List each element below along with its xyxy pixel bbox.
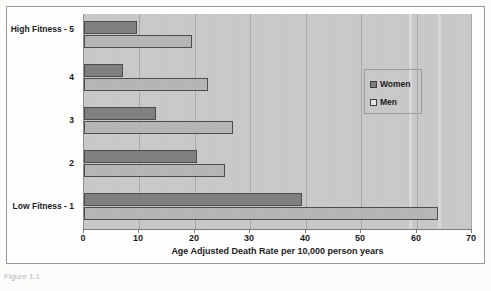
- y-axis-label-2: 2: [4, 158, 74, 169]
- x-axis-ticks: 0 10 20 30 40 50 60 70: [83, 230, 472, 246]
- bar-men-low-fitness-1[interactable]: [84, 207, 438, 220]
- legend-label-women: Women: [380, 79, 411, 89]
- scanned-page: Women Men High Fitness - 5 4 3 2 Low Fit…: [0, 0, 491, 291]
- bar-group-high-fitness-5: [84, 14, 471, 57]
- tick-label-10: 10: [123, 233, 153, 243]
- tick-label-20: 20: [179, 233, 209, 243]
- bar-women-4[interactable]: [84, 64, 123, 77]
- bar-men-high-fitness-5[interactable]: [84, 35, 192, 48]
- legend-item-women[interactable]: Women: [370, 76, 421, 92]
- tick-label-60: 60: [401, 233, 431, 243]
- bar-men-4[interactable]: [84, 78, 208, 91]
- y-axis-label-low-fitness-1: Low Fitness - 1: [4, 201, 74, 212]
- figure-caption-sliver: Figure 1.1: [4, 272, 124, 281]
- tick-label-40: 40: [290, 233, 320, 243]
- men-swatch-icon: [370, 99, 377, 106]
- bar-men-3[interactable]: [84, 121, 233, 134]
- tick-label-50: 50: [345, 233, 375, 243]
- legend-label-men: Men: [380, 97, 397, 107]
- plot-area: [83, 14, 471, 229]
- chart-figure-card: Women Men High Fitness - 5 4 3 2 Low Fit…: [6, 6, 485, 264]
- bar-women-low-fitness-1[interactable]: [84, 193, 302, 206]
- y-axis-labels: High Fitness - 5 4 3 2 Low Fitness - 1: [7, 14, 79, 229]
- bar-men-2[interactable]: [84, 164, 225, 177]
- chart-legend[interactable]: Women Men: [364, 69, 422, 114]
- bar-group-low-fitness-1: [84, 186, 471, 229]
- tick-label-30: 30: [234, 233, 264, 243]
- bar-women-high-fitness-5[interactable]: [84, 21, 137, 34]
- gridline-70: [471, 14, 472, 229]
- bar-women-3[interactable]: [84, 107, 156, 120]
- tick-label-70: 70: [456, 233, 486, 243]
- x-axis-title: Age Adjusted Death Rate per 10,000 perso…: [83, 246, 472, 256]
- y-axis-label-4: 4: [4, 72, 74, 83]
- legend-item-men[interactable]: Men: [370, 94, 421, 110]
- y-axis-label-3: 3: [4, 115, 74, 126]
- women-swatch-icon: [370, 81, 377, 88]
- tick-label-0: 0: [68, 233, 98, 243]
- bar-group-2: [84, 143, 471, 186]
- bar-women-2[interactable]: [84, 150, 197, 163]
- y-axis-label-high-fitness-5: High Fitness - 5: [4, 24, 74, 35]
